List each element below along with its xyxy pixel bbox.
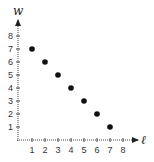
x-axis-label: ℓ (141, 133, 146, 147)
y-tick-label: 3 (8, 96, 13, 106)
data-point (94, 111, 100, 117)
y-tick-label: 6 (8, 57, 13, 67)
x-ticks: 12345678 (29, 138, 125, 155)
y-tick-label: 4 (8, 83, 13, 93)
data-point (55, 72, 61, 78)
y-tick-label: 1 (8, 122, 13, 132)
scatter-chart: w ℓ 12345678 12345678 (0, 0, 154, 162)
x-tick-label: 6 (94, 145, 99, 155)
data-point (81, 98, 87, 104)
x-tick-label: 2 (42, 145, 47, 155)
data-point (107, 124, 113, 130)
y-tick-label: 5 (8, 70, 13, 80)
x-tick-label: 1 (29, 145, 34, 155)
data-point (68, 85, 74, 91)
data-points (29, 46, 113, 130)
x-tick-label: 4 (68, 145, 73, 155)
x-tick-label: 5 (81, 145, 86, 155)
y-axis-label: w (13, 4, 24, 18)
x-tick-label: 8 (120, 145, 125, 155)
x-tick-label: 3 (55, 145, 60, 155)
y-tick-label: 7 (8, 44, 13, 54)
x-tick-label: 7 (107, 145, 112, 155)
y-tick-label: 2 (8, 109, 13, 119)
data-point (29, 46, 35, 52)
y-tick-label: 8 (8, 31, 13, 41)
data-point (42, 59, 48, 65)
